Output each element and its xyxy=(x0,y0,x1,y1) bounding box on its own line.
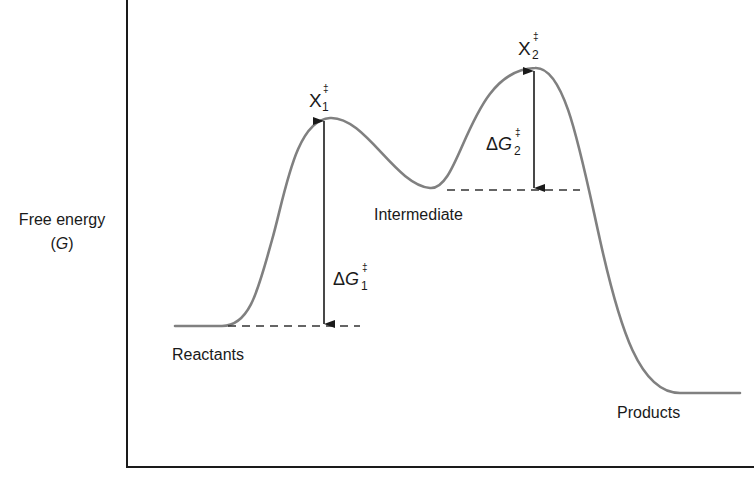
reactants-label: Reactants xyxy=(172,346,244,363)
svg-text:X: X xyxy=(518,38,531,59)
svg-text:‡: ‡ xyxy=(362,262,368,273)
transition-state-1-label: X 1 ‡ xyxy=(309,83,329,114)
svg-text:G: G xyxy=(498,134,512,154)
svg-text:Δ: Δ xyxy=(486,134,498,154)
delta-g1-label: Δ G 1 ‡ xyxy=(333,262,368,293)
y-axis-symbol: (G) xyxy=(50,235,73,252)
svg-text:1: 1 xyxy=(361,279,368,293)
energy-curve xyxy=(175,68,740,393)
svg-text:2: 2 xyxy=(532,48,539,62)
svg-text:Δ: Δ xyxy=(333,269,345,289)
svg-text:‡: ‡ xyxy=(533,31,539,42)
products-label: Products xyxy=(617,404,680,421)
svg-text:2: 2 xyxy=(514,144,521,158)
svg-text:X: X xyxy=(309,90,322,111)
svg-text:1: 1 xyxy=(322,100,329,114)
intermediate-label: Intermediate xyxy=(374,206,463,223)
transition-state-2-label: X 2 ‡ xyxy=(518,31,539,62)
svg-text:G: G xyxy=(345,269,359,289)
y-axis-label: Free energy xyxy=(19,211,105,228)
delta-g2-label: Δ G 2 ‡ xyxy=(486,127,521,158)
svg-text:‡: ‡ xyxy=(515,127,521,138)
energy-diagram: Free energy (G) Reactants Intermediate P… xyxy=(0,0,754,486)
svg-text:‡: ‡ xyxy=(323,83,329,94)
